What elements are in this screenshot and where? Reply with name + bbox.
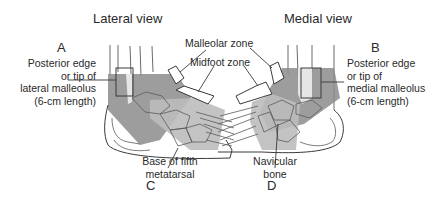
label-c-text: Base of fifth metatarsal <box>120 155 220 180</box>
midfoot-zone-medial <box>250 94 300 150</box>
label-d-line-1: Navicular <box>240 155 310 168</box>
label-c-line-1: Base of fifth <box>120 155 220 168</box>
medial-view-title: Medial view <box>284 11 352 26</box>
label-b-line-2: or tip of <box>347 70 425 83</box>
label-b-line-1: Posterior edge <box>347 57 425 70</box>
midfoot-zone-label: Midfoot zone <box>190 56 250 69</box>
label-a-line-2: or tip of <box>10 70 96 83</box>
label-b-letter: B <box>371 40 380 55</box>
label-a-line-1: Posterior edge <box>10 57 96 70</box>
label-c-letter: C <box>146 178 155 193</box>
label-d-letter: D <box>267 178 276 193</box>
label-a-line-4: (6-cm length) <box>10 95 96 108</box>
label-c-line-2: metatarsal <box>120 168 220 181</box>
label-b-line-4: (6-cm length) <box>347 95 425 108</box>
malleolar-zone-label: Malleolar zone <box>185 37 253 50</box>
label-d-text: Navicular bone <box>240 155 310 180</box>
label-a-letter: A <box>57 40 66 55</box>
label-b-text: Posterior edge or tip of medial malleolu… <box>347 57 425 107</box>
label-a-line-3: lateral malleolus <box>10 82 96 95</box>
label-a-text: Posterior edge or tip of lateral malleol… <box>10 57 96 107</box>
lateral-view-title: Lateral view <box>93 11 162 26</box>
label-b-line-3: medial malleolus <box>347 82 425 95</box>
ottawa-ankle-diagram: Lateral view Medial view Malleolar zone … <box>0 0 438 203</box>
